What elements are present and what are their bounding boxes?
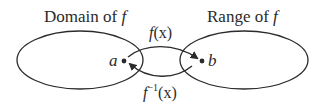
- point-a-dot: [122, 59, 127, 64]
- forward-map-label: f(x): [149, 24, 172, 42]
- point-a-label: a: [109, 51, 118, 70]
- domain-label: Domain of f: [44, 7, 128, 26]
- point-b-dot: [200, 59, 205, 64]
- range-label: Range of f: [207, 7, 280, 26]
- range-ellipse: [180, 31, 308, 89]
- inverse-arrow: [130, 64, 192, 76]
- point-b-label: b: [208, 51, 217, 70]
- inverse-map-label: f−1(x): [143, 82, 177, 102]
- function-inverse-diagram: Domain of f Range of f f(x) f−1(x) a b: [0, 0, 323, 104]
